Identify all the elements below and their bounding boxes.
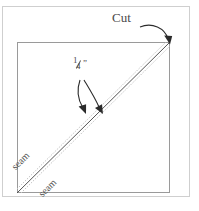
fraction-arrowhead-left-icon: [79, 104, 87, 114]
dotted-diagonal-lower: [17, 42, 166, 189]
fraction-arrow-curve-left: [78, 80, 83, 108]
fraction-denominator: 4: [76, 62, 81, 71]
dotted-diagonal-upper: [21, 46, 170, 193]
quilting-diagram: Cut 14” seam seam: [0, 0, 199, 211]
diagram-canvas: [0, 0, 199, 211]
fraction-glyph: 14: [73, 57, 82, 72]
fraction-arrow-curve-right: [84, 80, 99, 107]
cut-label: Cut: [112, 11, 131, 24]
cut-arrow-curve: [140, 25, 168, 39]
solid-diagonal-center: [17, 42, 170, 193]
inch-mark: ”: [83, 58, 87, 68]
seam-allowance-label: 14”: [73, 57, 87, 72]
